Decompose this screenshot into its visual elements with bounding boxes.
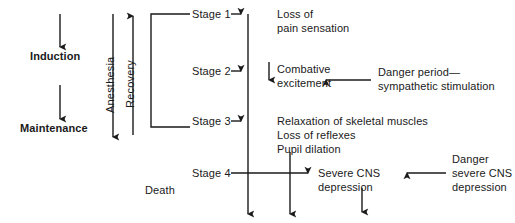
danger-severe-cns-line: depression xyxy=(452,181,507,194)
induction-label: Induction xyxy=(30,50,80,63)
stage-2-description-line: Combative xyxy=(277,63,330,76)
danger-severe-cns-line: Danger xyxy=(452,153,489,166)
anesthesia-stages-diagram: Induction Maintenance Anesthesia Recover… xyxy=(0,0,515,223)
stage-4-label: Stage 4 xyxy=(192,167,231,180)
stage-1-description-line: Loss of xyxy=(277,8,313,21)
death-label: Death xyxy=(145,184,175,197)
stage-3-description-line: Relaxation of skeletal muscles xyxy=(277,115,428,128)
recovery-axis-label: Recovery xyxy=(124,60,136,108)
maintenance-label: Maintenance xyxy=(20,122,88,135)
danger-period-line: Danger period— xyxy=(378,66,460,79)
anesthesia-axis-label: Anesthesia xyxy=(104,57,116,113)
stage-2-label: Stage 2 xyxy=(192,65,231,78)
stage-3-label: Stage 3 xyxy=(192,115,231,128)
danger-severe-cns-line: severe CNS xyxy=(452,167,512,180)
stage-4-description-line: Severe CNS xyxy=(318,167,380,180)
stage-4-description-line: depression xyxy=(318,181,373,194)
stage-1-label: Stage 1 xyxy=(192,8,231,21)
stage-group-bracket xyxy=(151,14,190,127)
diagram-lines-layer xyxy=(0,0,515,223)
stage-3-description-line: Pupil dilation xyxy=(277,143,341,156)
stage-2-description-line: excitement xyxy=(277,77,331,90)
stage-3-description-line: Loss of reflexes xyxy=(277,129,356,142)
stage-1-description-line: pain sensation xyxy=(277,22,349,35)
danger-period-line: sympathetic stimulation xyxy=(378,80,495,93)
